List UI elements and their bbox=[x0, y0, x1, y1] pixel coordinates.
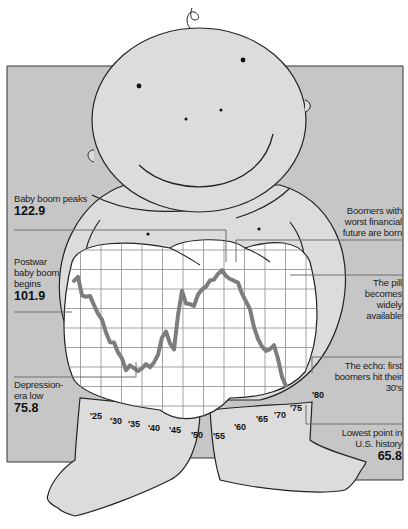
annotation-value: 75.8 bbox=[14, 401, 66, 416]
annotation-text: Depression-era low bbox=[14, 379, 63, 401]
annotation-text: Lowest point in U.S. history bbox=[342, 427, 402, 449]
annotation-text: The pill becomes widely available bbox=[365, 277, 402, 321]
x-tick-label: '35 bbox=[128, 419, 140, 429]
baby-eye-right bbox=[241, 58, 246, 63]
baby-nipple bbox=[146, 232, 149, 235]
annotation-text: Boomers with worst financial future are … bbox=[343, 205, 402, 238]
annotation-boomers-worst-future: Boomers with worst financial future are … bbox=[326, 205, 402, 238]
annotation-text: Baby boom peaks bbox=[14, 193, 87, 204]
annotation-depression-low: Depression-era low 75.8 bbox=[14, 379, 66, 416]
x-tick-label: '70 bbox=[274, 410, 286, 420]
annotation-lowest-point: Lowest point in U.S. history 65.8 bbox=[326, 427, 402, 464]
baby-nostril bbox=[220, 109, 223, 112]
annotation-pill-available: The pill becomes widely available bbox=[350, 277, 402, 321]
x-tick-label: '60 bbox=[234, 422, 246, 432]
annotation-value: 65.8 bbox=[326, 449, 402, 464]
annotation-value: 122.9 bbox=[14, 204, 94, 219]
baby-head bbox=[92, 28, 306, 212]
baby-hair-curl bbox=[187, 8, 199, 28]
x-tick-label: '65 bbox=[256, 414, 268, 424]
annotation-postwar-begins: Postwar baby boom begins 101.9 bbox=[14, 256, 60, 304]
annotation-echo: The echo: first boomers hit their 30's bbox=[330, 360, 402, 393]
annotation-value: 101.9 bbox=[14, 289, 60, 304]
annotation-text: Postwar baby boom begins bbox=[14, 256, 59, 289]
annotation-baby-boom-peaks: Baby boom peaks 122.9 bbox=[14, 193, 94, 219]
baby-nipple bbox=[257, 227, 260, 230]
x-tick-label: '45 bbox=[169, 425, 181, 435]
x-tick-label: '50 bbox=[191, 430, 203, 440]
x-tick-label: '80 bbox=[312, 390, 324, 400]
baby-nostril bbox=[185, 118, 188, 121]
x-tick-label: '75 bbox=[290, 403, 302, 413]
x-tick-label: '30 bbox=[110, 416, 122, 426]
x-tick-label: '55 bbox=[213, 431, 225, 441]
x-tick-label: '25 bbox=[90, 411, 102, 421]
baby-eye-left bbox=[137, 84, 142, 89]
x-tick-label: '40 bbox=[148, 423, 160, 433]
annotation-text: The echo: first boomers hit their 30's bbox=[335, 360, 402, 393]
